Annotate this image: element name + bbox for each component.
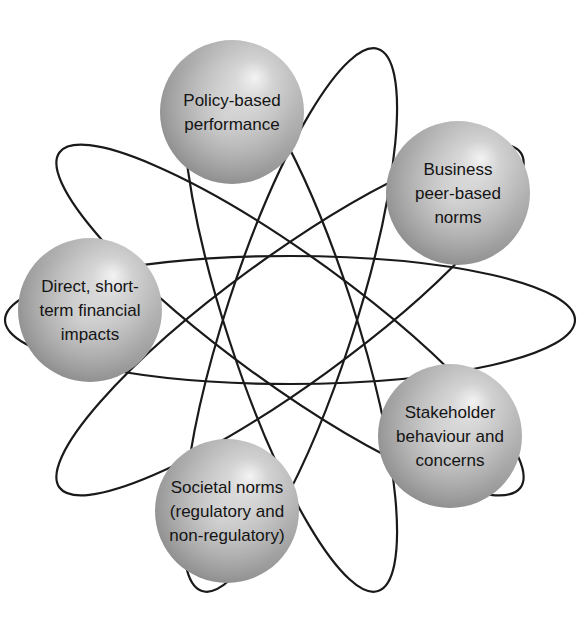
- node-stakeholder-behaviour-and-concerns: Stakeholderbehaviour andconcerns: [378, 364, 522, 508]
- node-label-line: Policy-based: [183, 91, 280, 110]
- node-business-peer-based-norms: Businesspeer-basednorms: [386, 121, 530, 265]
- node-label-line: peer-based: [415, 184, 501, 203]
- node-label-line: Business: [424, 160, 493, 179]
- diagram-canvas: Policy-basedperformanceBusinesspeer-base…: [0, 0, 580, 626]
- node-label-line: term financial: [39, 301, 140, 320]
- sphere-glow: [160, 40, 304, 184]
- node-label-line: Societal norms: [171, 478, 283, 497]
- node-label-line: concerns: [416, 451, 485, 470]
- node-societal-norms: Societal norms(regulatory andnon-regulat…: [155, 439, 299, 583]
- node-label-line: norms: [434, 208, 481, 227]
- atom-diagram: Policy-basedperformanceBusinesspeer-base…: [0, 0, 580, 626]
- node-policy-based-performance: Policy-basedperformance: [160, 40, 304, 184]
- node-label-line: performance: [184, 115, 279, 134]
- node-label-line: (regulatory and: [170, 502, 284, 521]
- node-direct-short-term-financial-impacts: Direct, short-term financialimpacts: [18, 238, 162, 382]
- node-label-line: Direct, short-: [41, 277, 138, 296]
- node-label-line: impacts: [61, 325, 120, 344]
- nodes-layer: Policy-basedperformanceBusinesspeer-base…: [18, 40, 530, 583]
- node-label-line: behaviour and: [396, 427, 504, 446]
- node-label-line: Stakeholder: [405, 403, 496, 422]
- node-label-line: non-regulatory): [169, 526, 284, 545]
